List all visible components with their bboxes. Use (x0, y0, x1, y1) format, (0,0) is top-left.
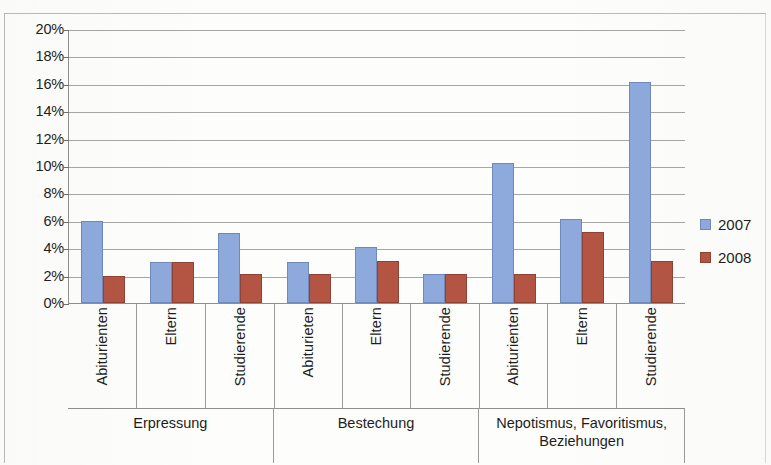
bar-2008 (377, 261, 399, 303)
group-label-cell: Nepotismus, Favoritismus, Beziehungen (479, 409, 685, 463)
category-label: Eltern (368, 307, 384, 345)
category-group: AbiturietenElternStudierende (274, 304, 480, 408)
bar-2007 (423, 274, 445, 303)
category-label: Abiturienten (94, 307, 110, 386)
bar-2008 (309, 274, 331, 303)
y-axis-tick-label: 14% (14, 103, 64, 119)
bar-2008 (445, 274, 467, 303)
plot-area (68, 30, 685, 304)
legend-item: 2008 (700, 249, 766, 266)
bar-pair (206, 30, 274, 303)
legend-item: 2007 (700, 216, 766, 233)
bar-2007 (287, 262, 309, 303)
bar-2007 (492, 163, 514, 303)
legend-swatch-2007 (700, 219, 711, 230)
y-axis-tick-label: 6% (14, 213, 64, 229)
bar-2007 (218, 233, 240, 303)
category-axis-band: AbiturientenElternStudierendeAbiturieten… (68, 304, 685, 409)
category-label: Studierende (437, 307, 453, 386)
y-axis-tick-label: 20% (14, 21, 64, 37)
chart-legend: 20072008 (700, 216, 766, 282)
bar-2007 (150, 262, 172, 303)
bar-pair (548, 30, 616, 303)
bar-2008 (514, 274, 536, 303)
y-axis-tick-label: 8% (14, 185, 64, 201)
bar-2008 (172, 262, 194, 303)
y-axis-tick-label: 0% (14, 295, 64, 311)
group-label-cell: Bestechung (274, 409, 480, 463)
category-label-cell: Eltern (548, 304, 617, 408)
legend-swatch-2008 (700, 252, 711, 263)
group-separator (274, 304, 275, 409)
category-group: AbiturientenElternStudierende (68, 304, 274, 408)
bar-pair (480, 30, 548, 303)
y-axis-tick-label: 18% (14, 48, 64, 64)
category-label: Studierende (643, 307, 659, 386)
y-axis-tick-label: 4% (14, 240, 64, 256)
group-label: Erpressung (129, 414, 211, 432)
group-label-cell: Erpressung (68, 409, 274, 463)
category-label-cell: Studierende (206, 304, 274, 408)
bar-group (274, 30, 479, 303)
category-label-cell: Eltern (343, 304, 412, 408)
bar-2008 (103, 276, 125, 303)
category-group: AbiturientenElternStudierende (479, 304, 685, 408)
category-label: Abiturienten (505, 307, 521, 386)
category-label-cell: Abiturienten (68, 304, 137, 408)
bar-pair (617, 30, 685, 303)
category-label-cell: Eltern (137, 304, 206, 408)
y-axis-tick-label: 2% (14, 268, 64, 284)
y-axis-tick-label: 10% (14, 158, 64, 174)
bar-pair (343, 30, 411, 303)
category-label-cell: Studierende (617, 304, 685, 408)
group-label: Nepotismus, Favoritismus, Beziehungen (479, 414, 684, 450)
y-axis-tick-label: 12% (14, 131, 64, 147)
bar-2008 (240, 274, 262, 303)
legend-label: 2008 (718, 249, 751, 266)
category-label: Eltern (163, 307, 179, 345)
bar-2007 (81, 221, 103, 303)
bar-2008 (651, 261, 673, 303)
group-separator (479, 304, 480, 409)
legend-label: 2007 (718, 216, 751, 233)
category-label-cell: Abiturieten (274, 304, 343, 408)
chart-page: 20%18%16%14%12%10%8%6%4%2%0% Abituriente… (0, 0, 771, 465)
bar-2007 (355, 247, 377, 303)
category-label-cell: Studierende (411, 304, 479, 408)
bar-2007 (560, 219, 582, 303)
group-axis-band: ErpressungBestechungNepotismus, Favoriti… (68, 409, 685, 463)
category-label: Eltern (574, 307, 590, 345)
bar-2008 (582, 232, 604, 303)
bar-pair (69, 30, 137, 303)
bar-pair (137, 30, 205, 303)
category-label: Studierende (232, 307, 248, 386)
y-axis-tick-label: 16% (14, 76, 64, 92)
bar-series-container (69, 30, 685, 303)
y-axis-labels: 20%18%16%14%12%10%8%6%4%2%0% (10, 30, 64, 304)
bar-pair (274, 30, 342, 303)
bar-pair (411, 30, 479, 303)
group-label: Bestechung (334, 414, 419, 432)
bar-group (480, 30, 685, 303)
category-label-cell: Abiturienten (479, 304, 548, 408)
category-label: Abiturieten (300, 307, 316, 377)
bar-group (69, 30, 274, 303)
bar-2007 (629, 82, 651, 303)
